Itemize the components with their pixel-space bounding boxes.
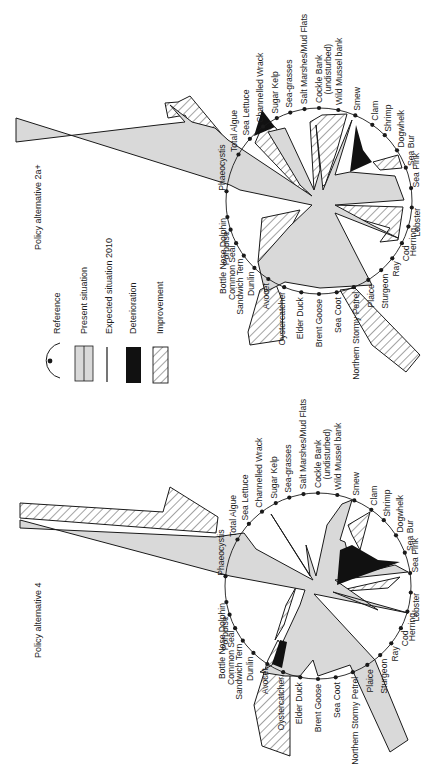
reference-point-dot [234,241,238,245]
reference-point-dot [275,116,279,120]
legend-label: Present situation [79,267,89,334]
axis-label: Sea-grasses [283,445,293,493]
reference-point-dot [352,498,356,502]
axis-label: Wild Mussel bank [333,422,343,490]
reference-point-dot [260,510,264,514]
reference-point-dot [390,256,394,260]
reference-point-dot [378,653,382,657]
legend: Reference Present situation Expected sit… [46,238,168,383]
legend-item-improvement: Improvement [153,281,168,383]
axis-label: Sugar Kelp [270,71,280,114]
axis-label: Salt Marshes/Mud Flats [299,14,309,104]
reference-point-dot [379,268,383,272]
axis-label: Ray [390,646,400,662]
reference-point-dot [382,518,386,522]
reference-point-dot [302,107,306,111]
axis-label: Phaeocystis [217,144,227,190]
legend-item-deterioration: Deterioration [126,282,141,383]
axis-label: Sea-grasses [284,60,294,108]
axis-label: Total Algue [229,110,239,152]
reference-point-dot [335,493,339,497]
axis-label: Wild Mussel bank [334,37,344,105]
axis-label: Oystercatcher [277,292,287,346]
reference-point-dot [301,492,305,496]
reference-point-dot [316,677,320,681]
chart-title: Policy alternative 2a+ [33,164,43,250]
reference-point-dot [399,626,403,630]
diagram-canvas: Policy alternative 2a+ PhaeocystisTotal … [0,0,442,776]
legend-label: Reference [52,292,62,334]
reference-point-dot [252,266,256,270]
axis-label: Cod [401,245,411,261]
reference-point-dot [242,254,246,258]
reference-point-dot [351,670,355,674]
axis-label: Sea Pink [410,537,420,572]
legend-label: Expected situation 2010 [104,238,114,334]
axis-label: Sea Lettuce [240,474,250,520]
axis-label: Sea Pink [411,152,421,187]
reference-point-dot [317,106,321,110]
axis-label: Plaice [365,669,375,693]
axis-label: Sea Coot [333,297,343,333]
reference-point-dot [335,290,339,294]
reference-point-dot [248,137,252,141]
axis-label: Shrimp [383,104,393,131]
axis-label: Smew [352,86,362,111]
axis-label: Total Algue [228,495,238,537]
axis-label: Channelled Wrack [254,437,264,508]
reference-point-dot [316,491,320,495]
reference-point-dot [299,290,303,294]
axis-label: Northern Stormy Petrel [351,292,361,380]
reference-point-dot [235,537,239,541]
axis-label: Salt Marshes/Mud Flats [298,399,308,489]
reference-point-dot [334,675,338,679]
axis-label: Dunlin [246,271,256,296]
axis-label: Sturgeon [380,274,390,309]
axis-label: Clam [370,101,380,121]
legend-label: Deterioration [128,282,138,334]
reference-point-dot [288,111,292,115]
reference-point-dot [352,285,356,289]
reference-point-dot [233,626,237,630]
reference-point-dot [383,133,387,137]
reference-dot-icon [48,359,53,364]
axis-label: Clam [369,486,379,506]
reference-point-dot [353,113,357,117]
chart-policy-2a-plus: Policy alternative 2a+ PhaeocystisTotal … [16,14,422,380]
reference-point-dot [228,613,232,617]
axis-label: (undisturbed) [322,429,332,480]
reference-point-dot [394,533,398,537]
reference-point-dot [400,241,404,245]
reference-point-dot [366,278,370,282]
legend-item-expected: Expected situation 2010 [104,238,114,382]
deterioration-swatch-icon [126,347,141,383]
improvement-swatch-icon [153,347,168,383]
reference-point-dot [261,125,265,129]
reference-point-dot [287,496,291,500]
axis-label: Brent Goose [314,299,324,347]
reference-point-dot [251,651,255,655]
reference-point-dot [395,148,399,152]
reference-point-dot [266,277,270,281]
axis-label: Avocet [260,668,270,695]
reference-point-dot [241,639,245,643]
axis-label: Shrimp [382,489,392,516]
reference-point-dot [317,292,321,296]
axis-label: Elder Duck [294,681,304,724]
axis-label: Ray [391,261,401,277]
axis-label: Northern Stormy Petrel [350,677,360,765]
amoeba-diagram-page: Policy alternative 2a+ PhaeocystisTotal … [0,0,442,776]
axis-label: Sea Coot [332,682,342,718]
reference-point-dot [389,641,393,645]
reference-point-dot [247,522,251,526]
axis-label: Dunlin [245,656,255,681]
axis-label: Sturgeon [379,659,389,694]
axis-label: Plaice [366,284,376,308]
axis-label: Smew [351,471,361,496]
reference-point-dot [282,285,286,289]
reference-point-dot [281,670,285,674]
chart-policy-4: Policy alternative 4 PhaeocystisTotal Al… [20,399,421,765]
reference-point-dot [369,508,373,512]
reference-point-dot [298,675,302,679]
axis-label: Bottle Nose Dolphin [217,603,227,679]
